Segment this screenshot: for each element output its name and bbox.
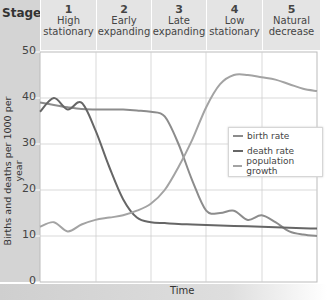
y-tick: 0 [16, 274, 36, 287]
legend-label: birth rate [247, 131, 289, 141]
line-swatch-icon [233, 165, 242, 167]
y-tick: 50 [16, 44, 36, 57]
legend-item-population-growth: population growth [229, 159, 322, 173]
line-swatch-icon [233, 150, 243, 152]
legend-item-birth-rate: birth rate [229, 129, 322, 143]
x-axis-label: Time [170, 285, 194, 296]
legend: birth rate death rate population growth [228, 127, 323, 177]
legend-label: death rate [247, 146, 294, 156]
y-axis-label: Births and deaths per 1000 per year [2, 96, 24, 246]
tick-marks [30, 52, 40, 282]
line-swatch-icon [233, 135, 243, 137]
legend-label: population growth [246, 156, 322, 176]
